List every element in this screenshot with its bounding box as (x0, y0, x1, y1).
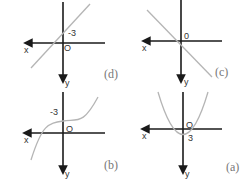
x-axis-label: x (24, 45, 29, 55)
x-axis-label: x (142, 131, 147, 141)
y-axis-label: y (184, 77, 189, 87)
panel-caption: (d) (104, 67, 118, 81)
panel-caption: (c) (215, 65, 228, 79)
line-curve (31, 4, 90, 68)
y-intercept-label: 3 (188, 133, 193, 143)
x-axis-label: x (24, 135, 29, 145)
panel-c: 0 x y (c) (142, 0, 228, 87)
graph-panels-figure: 3 O x y (a) -3 O x y (b) 0 x y (c) (0, 0, 248, 185)
panel-b: -3 O x y (b) (24, 92, 118, 179)
origin-label: O (66, 124, 73, 134)
panel-caption: (a) (226, 160, 239, 174)
y-intercept-label: -3 (68, 28, 76, 38)
cubic-curve (31, 97, 98, 160)
y-axis-label: y (65, 169, 70, 179)
x-axis-label: x (142, 43, 147, 53)
origin-label: 0 (184, 31, 189, 41)
y-axis-label: y (65, 78, 70, 88)
origin-label: O (64, 43, 71, 53)
y-intercept-label: -3 (50, 107, 58, 117)
panel-a: 3 O x y (a) (142, 92, 239, 179)
origin-label: O (186, 120, 193, 130)
panel-d: -3 O x y (d) (24, 2, 118, 88)
panel-caption: (b) (104, 158, 118, 172)
y-axis-label: y (185, 169, 190, 179)
line-curve (147, 10, 212, 77)
